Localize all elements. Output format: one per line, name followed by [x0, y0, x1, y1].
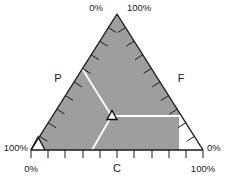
axis-label-C: C	[113, 162, 121, 174]
apex-right-percent-label: 100%	[127, 2, 152, 13]
ternary-diagram-container: 0% 100% 100% 0% 0% 100% P F C	[0, 0, 229, 177]
axis-label-F: F	[178, 72, 185, 84]
axis-label-P: P	[54, 72, 61, 84]
labels-svg: 0% 100% 100% 0% 0% 100% P F C	[0, 0, 229, 177]
left-vertex-upper-percent-label: 100%	[4, 142, 29, 153]
right-vertex-lower-percent-label: 100%	[191, 163, 216, 174]
left-vertex-lower-percent-label: 0%	[24, 163, 38, 174]
apex-left-percent-label: 0%	[89, 2, 103, 13]
right-vertex-upper-percent-label: 0%	[207, 142, 221, 153]
